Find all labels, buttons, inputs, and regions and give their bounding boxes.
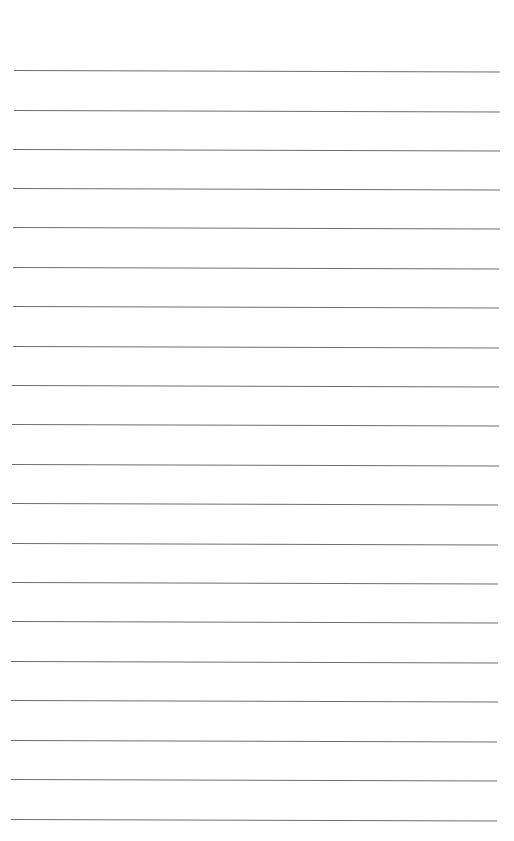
ruled-line	[11, 740, 497, 743]
ruled-line	[12, 503, 498, 506]
ruled-line	[12, 424, 499, 427]
ruled-line	[12, 621, 498, 624]
ruled-line	[11, 700, 498, 703]
ruled-line	[13, 149, 500, 152]
ruled-line	[13, 346, 499, 349]
ruled-line	[11, 819, 497, 822]
ruled-line	[12, 543, 498, 546]
ruled-line	[13, 188, 500, 191]
ruled-line	[11, 779, 497, 782]
ruled-page	[0, 0, 514, 841]
ruled-line	[13, 227, 500, 230]
ruled-line	[11, 661, 498, 664]
ruled-line	[12, 385, 499, 388]
ruled-line	[13, 306, 499, 309]
ruled-line	[13, 267, 499, 270]
ruled-line	[12, 464, 499, 467]
ruled-line	[14, 70, 500, 73]
ruled-line	[12, 582, 498, 585]
ruled-line	[14, 110, 500, 113]
